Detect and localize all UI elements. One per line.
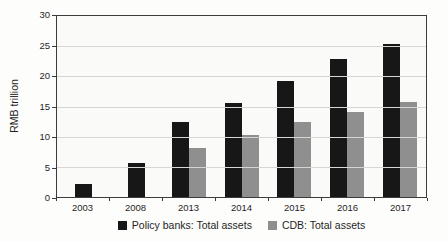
bar-cdb-2017 — [400, 102, 417, 197]
x-axis-tick — [427, 198, 428, 201]
legend-item-policy-banks: Policy banks: Total assets — [118, 219, 252, 231]
legend-swatch-icon-cdb — [268, 221, 277, 230]
bar-cdb-2013 — [189, 148, 206, 197]
x-axis-tick — [162, 198, 163, 201]
y-axis-tick-label-10: 10 — [0, 131, 50, 143]
x-axis-tick — [56, 198, 57, 201]
bar-policy-banks-2013 — [172, 122, 189, 197]
plot-area — [56, 15, 427, 198]
y-axis-tick-label-25: 25 — [0, 40, 50, 52]
bar-policy-banks-2014 — [225, 103, 242, 197]
x-axis-tick-label-2013: 2013 — [162, 202, 215, 214]
x-axis-tick — [215, 198, 216, 201]
x-axis-tick-label-2008: 2008 — [109, 202, 162, 214]
y-axis-tick-label-20: 20 — [0, 70, 50, 82]
y-axis-tick-label-15: 15 — [0, 101, 50, 113]
x-axis-tick-label-2017: 2017 — [374, 202, 427, 214]
y-axis-tick-label-5: 5 — [0, 162, 50, 174]
gridline-25 — [57, 46, 426, 47]
y-axis-tick — [52, 168, 56, 169]
x-axis-tick — [268, 198, 269, 201]
gridline-5 — [57, 167, 426, 168]
bar-cdb-2015 — [294, 122, 311, 197]
bar-policy-banks-2015 — [277, 81, 294, 197]
bar-policy-banks-2017 — [383, 44, 400, 197]
x-axis-tick-label-2014: 2014 — [215, 202, 268, 214]
legend-label-policy-banks: Policy banks: Total assets — [132, 219, 252, 231]
legend-item-cdb: CDB: Total assets — [268, 219, 365, 231]
x-axis-tick-label-2015: 2015 — [268, 202, 321, 214]
bar-cdb-2016 — [347, 112, 364, 197]
gridline-15 — [57, 107, 426, 108]
bar-policy-banks-2016 — [330, 59, 347, 197]
x-axis-tick — [321, 198, 322, 201]
x-axis-tick-label-2003: 2003 — [56, 202, 109, 214]
y-axis-tick — [52, 137, 56, 138]
bar-chart-figure: RMB trillion Policy banks: Total assetsC… — [0, 0, 448, 242]
gridline-10 — [57, 137, 426, 138]
x-axis-tick — [374, 198, 375, 201]
legend-swatch-icon-policy-banks — [118, 221, 127, 230]
y-axis-tick-label-0: 0 — [0, 192, 50, 204]
y-axis-tick — [52, 107, 56, 108]
x-axis-tick — [109, 198, 110, 201]
y-axis-tick — [52, 76, 56, 77]
x-axis-tick-label-2016: 2016 — [321, 202, 374, 214]
y-axis-tick — [52, 46, 56, 47]
legend: Policy banks: Total assetsCDB: Total ass… — [56, 219, 427, 231]
gridline-20 — [57, 76, 426, 77]
legend-label-cdb: CDB: Total assets — [282, 219, 365, 231]
bar-policy-banks-2003 — [75, 184, 92, 197]
bar-policy-banks-2008 — [128, 163, 145, 197]
y-axis-tick-label-30: 30 — [0, 9, 50, 21]
y-axis-tick — [52, 15, 56, 16]
